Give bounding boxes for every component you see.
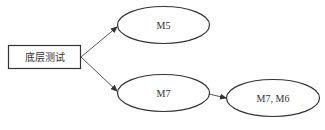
edge-root-to-m7 xyxy=(81,57,117,91)
node-m5-label: M5 xyxy=(157,20,171,31)
node-m7m6: M7, M6 xyxy=(227,80,320,117)
edge-m7-to-m7m6 xyxy=(209,94,226,98)
node-m5: M5 xyxy=(118,7,210,44)
node-m7m6-label: M7, M6 xyxy=(257,93,290,104)
edge-root-to-m5 xyxy=(81,27,117,57)
node-m7-label: M7 xyxy=(157,88,171,99)
flow-diagram: 底层测试 M5 M7 M7, M6 xyxy=(0,0,325,130)
node-m7: M7 xyxy=(118,75,210,112)
root-node: 底层测试 xyxy=(9,46,81,69)
root-node-label: 底层测试 xyxy=(25,51,65,63)
